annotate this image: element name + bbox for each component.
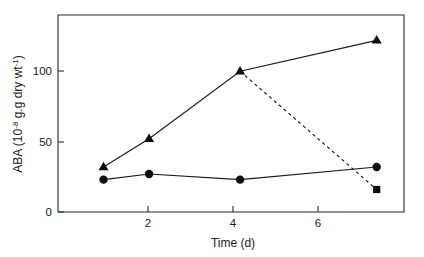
y-axis-ticks xyxy=(58,71,64,212)
square-dashed-branch-line xyxy=(240,71,377,189)
series-markers-group xyxy=(99,35,382,193)
circle-series-marker-3 xyxy=(372,163,380,171)
y-axis-title-part2: g.g dry wt xyxy=(11,66,25,122)
plot-frame xyxy=(58,15,404,212)
y-axis-title: ABA (10-8 g.g dry wt-1) xyxy=(11,55,25,173)
x-tick-label-4: 4 xyxy=(230,217,237,229)
triangle-series-marker-3 xyxy=(372,35,382,44)
chart-figure: 0 50 100 2 4 6 Time (d) ABA (10-8 g.g dr… xyxy=(0,0,424,257)
x-tick-label-2: 2 xyxy=(145,217,151,229)
circle-series-marker-0 xyxy=(99,175,107,183)
triangle-series-marker-1 xyxy=(144,133,154,142)
plot-canvas: 0 50 100 2 4 6 Time (d) ABA (10-8 g.g dr… xyxy=(0,0,424,257)
y-tick-label-50: 50 xyxy=(39,136,52,148)
y-tick-label-0: 0 xyxy=(46,206,52,218)
series-lines-group xyxy=(104,40,377,189)
frame-box xyxy=(58,15,404,212)
y-axis-title-part3: ) xyxy=(11,55,25,59)
circle-series-marker-2 xyxy=(236,175,244,183)
x-axis-title: Time (d) xyxy=(211,236,255,250)
y-tick-label-100: 100 xyxy=(33,65,52,77)
triangle-series-line xyxy=(104,40,377,167)
y-axis-title-part1: ABA (10 xyxy=(11,128,25,172)
square-dashed-branch-marker-1 xyxy=(373,186,380,193)
circle-series-marker-1 xyxy=(145,170,153,178)
svg-text:ABA (10-8 g.g dry wt-1): ABA (10-8 g.g dry wt-1) xyxy=(11,55,25,173)
x-tick-label-6: 6 xyxy=(315,217,321,229)
triangle-series-marker-0 xyxy=(99,162,109,171)
x-axis-ticks xyxy=(148,206,318,212)
